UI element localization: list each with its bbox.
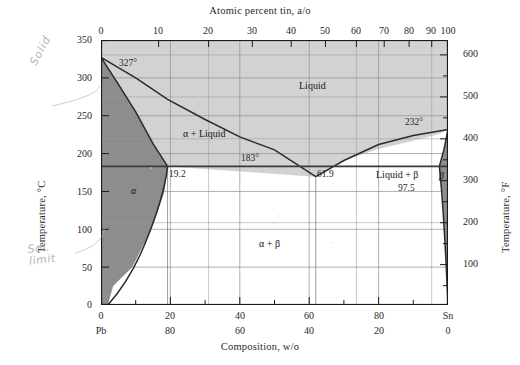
scan-speck bbox=[415, 300, 417, 302]
bottom-element-pb: Pb bbox=[92, 325, 110, 336]
label-beta: β bbox=[439, 170, 444, 181]
right-tick-400: 400 bbox=[463, 132, 478, 143]
label-eutectic-composition-61-9: 61.9 bbox=[317, 169, 334, 179]
composition-marker-lines bbox=[168, 166, 316, 305]
left-tick-150: 150 bbox=[62, 186, 92, 197]
scan-speck bbox=[198, 96, 200, 98]
handwritten-note-sol-limit: Sol. limit bbox=[27, 241, 56, 267]
right-axis-title: Temperature, °F bbox=[500, 182, 511, 253]
top-tick-10: 10 bbox=[149, 25, 167, 36]
top-axis-title: Atomic percent tin, a/o bbox=[0, 5, 520, 16]
handwritten-note-solid: Solid bbox=[28, 34, 53, 68]
top-tick-0: 0 bbox=[92, 25, 110, 36]
label-alpha-plus-beta: α + β bbox=[259, 238, 280, 249]
top-tick-50: 50 bbox=[316, 25, 334, 36]
top-tick-30: 30 bbox=[243, 25, 261, 36]
left-tick-200: 200 bbox=[62, 148, 92, 159]
label-liquid-plus-beta: Liquid + β bbox=[376, 169, 418, 180]
scan-speck bbox=[278, 215, 280, 217]
left-tick-300: 300 bbox=[62, 72, 92, 83]
right-tick-500: 500 bbox=[463, 90, 478, 101]
bottom-sn-tick-80: 80 bbox=[370, 310, 388, 321]
bottom-element-sn: Sn bbox=[438, 310, 458, 321]
label-beta-boundary-97-5: 97.5 bbox=[398, 183, 415, 193]
left-tick-250: 250 bbox=[62, 110, 92, 121]
right-tick-200: 200 bbox=[463, 216, 478, 227]
right-tick-100: 100 bbox=[463, 258, 478, 269]
right-tick-300: 300 bbox=[463, 174, 478, 185]
bottom-pb-tick-80: 80 bbox=[161, 325, 179, 336]
label-pb-melting-point: 327° bbox=[119, 58, 137, 68]
scan-speck bbox=[330, 242, 332, 244]
bottom-sn-tick-40: 40 bbox=[231, 310, 249, 321]
label-alpha: α bbox=[131, 185, 136, 196]
label-liquid: Liquid bbox=[299, 80, 326, 91]
phase-diagram-figure: Atomic percent tin, a/o Composition, w/o… bbox=[0, 0, 520, 365]
bottom-axis-title: Composition, w/o bbox=[0, 341, 520, 352]
bottom-pb-tick-0: 0 bbox=[438, 325, 458, 336]
top-tick-70: 70 bbox=[375, 25, 393, 36]
phase-diagram-plot: Liquid α β α + Liquid Liquid + β α + β 3… bbox=[101, 40, 448, 305]
label-alpha-solubility-19-2: 19.2 bbox=[169, 169, 186, 179]
label-sn-melting-point: 232° bbox=[405, 117, 423, 127]
bottom-pb-tick-20: 20 bbox=[370, 325, 388, 336]
bottom-sn-tick-0: 0 bbox=[92, 310, 110, 321]
ticks-bottom bbox=[102, 297, 448, 305]
left-tick-0: 0 bbox=[62, 299, 92, 310]
right-tick-600: 600 bbox=[463, 48, 478, 59]
left-tick-350: 350 bbox=[62, 34, 92, 45]
label-eutectic-temperature: 183° bbox=[241, 153, 259, 163]
bottom-sn-tick-60: 60 bbox=[300, 310, 318, 321]
top-tick-20: 20 bbox=[199, 25, 217, 36]
left-tick-100: 100 bbox=[62, 224, 92, 235]
top-tick-100: 100 bbox=[437, 25, 459, 36]
left-tick-50: 50 bbox=[62, 262, 92, 273]
top-tick-80: 80 bbox=[400, 25, 418, 36]
top-tick-60: 60 bbox=[347, 25, 365, 36]
bottom-pb-tick-60: 60 bbox=[231, 325, 249, 336]
top-tick-40: 40 bbox=[282, 25, 300, 36]
bottom-pb-tick-40: 40 bbox=[300, 325, 318, 336]
bottom-sn-tick-20: 20 bbox=[161, 310, 179, 321]
scan-speck bbox=[150, 167, 152, 169]
label-alpha-plus-liquid: α + Liquid bbox=[183, 128, 226, 139]
